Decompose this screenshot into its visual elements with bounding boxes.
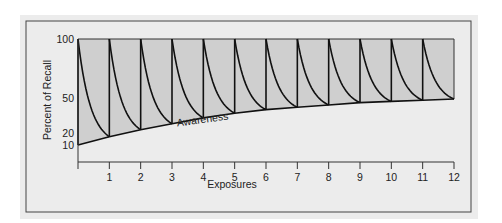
x-tick-label: 6 xyxy=(263,171,269,183)
plot-area xyxy=(78,39,454,145)
x-tick-label: 4 xyxy=(200,171,206,183)
y-tick-label: 10 xyxy=(62,139,74,151)
x-tick-label: 3 xyxy=(169,171,175,183)
recall-chart: 123456789101112100502010 Exposures Perce… xyxy=(0,0,502,223)
y-tick-label: 50 xyxy=(62,92,74,104)
x-tick-label: 9 xyxy=(357,171,363,183)
x-tick-label: 8 xyxy=(326,171,332,183)
x-axis-label: Exposures xyxy=(207,178,257,190)
x-tick-label: 12 xyxy=(448,171,460,183)
y-tick-label: 20 xyxy=(62,127,74,139)
x-tick-label: 11 xyxy=(417,171,428,183)
x-tick-label: 1 xyxy=(106,171,112,183)
x-tick-label: 10 xyxy=(385,171,397,183)
y-axis-label: Percent of Recall xyxy=(41,60,53,140)
y-tick-label: 100 xyxy=(56,33,74,45)
x-tick-label: 2 xyxy=(138,171,144,183)
x-tick-label: 7 xyxy=(294,171,300,183)
